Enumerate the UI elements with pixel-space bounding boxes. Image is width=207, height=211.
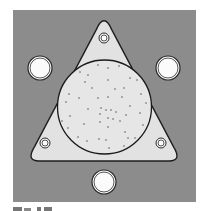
dot — [134, 137, 136, 139]
dot — [118, 65, 120, 67]
dot — [123, 87, 125, 89]
hole-bottom-right — [156, 138, 166, 148]
dot — [91, 87, 93, 89]
dot — [65, 101, 67, 103]
dot — [121, 96, 123, 98]
dot — [87, 74, 89, 76]
dot — [83, 123, 85, 125]
dot — [110, 109, 112, 111]
dot — [105, 139, 107, 141]
dot — [107, 79, 109, 81]
dot — [107, 96, 109, 98]
dot — [115, 111, 117, 113]
dot — [107, 67, 109, 69]
dot — [145, 102, 147, 104]
dot — [97, 97, 99, 99]
dot — [61, 120, 63, 122]
dot — [69, 115, 71, 117]
dot — [114, 88, 116, 90]
center-dotted-circle — [58, 60, 152, 154]
dot — [67, 127, 69, 129]
dot — [108, 147, 110, 149]
dot — [99, 113, 101, 115]
dot — [79, 71, 81, 73]
hole-left — [28, 56, 52, 80]
dot — [140, 93, 142, 95]
dot — [105, 109, 107, 111]
dot — [77, 136, 79, 138]
dot — [78, 97, 80, 99]
dot — [107, 117, 109, 119]
dot — [97, 64, 99, 66]
dot — [125, 114, 127, 116]
dot — [87, 108, 89, 110]
dot — [86, 140, 88, 142]
dot — [142, 124, 144, 126]
dot — [112, 118, 114, 120]
dot — [100, 107, 102, 109]
dot — [119, 120, 121, 122]
diagram-figure — [0, 0, 207, 211]
dot — [139, 112, 141, 114]
dot — [98, 138, 100, 140]
dot — [129, 77, 131, 79]
dot — [68, 93, 70, 95]
diagram-svg — [0, 0, 207, 211]
hole-bottom-left — [40, 138, 50, 148]
hole-right — [156, 56, 180, 80]
dot — [124, 131, 126, 133]
hole-bottom — [92, 170, 116, 194]
dot — [84, 81, 86, 83]
caption-truncated — [13, 207, 52, 211]
dot — [129, 105, 131, 107]
dot — [127, 137, 129, 139]
dot — [107, 126, 109, 128]
dot — [99, 121, 101, 123]
hole-top — [99, 33, 109, 43]
dot — [136, 79, 138, 81]
dot — [123, 145, 125, 147]
